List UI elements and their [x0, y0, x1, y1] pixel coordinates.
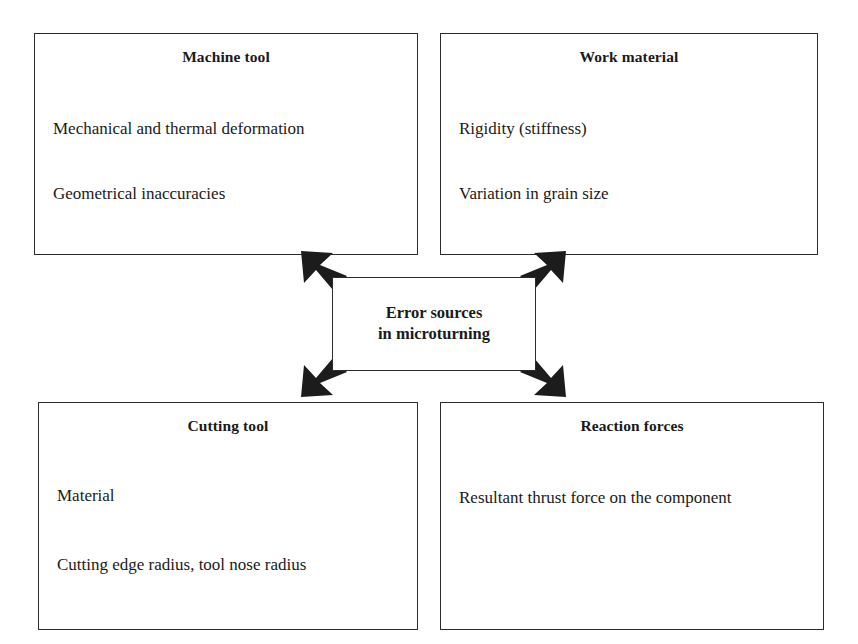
- node-work-material-item-1: Rigidity (stiffness): [459, 119, 587, 139]
- node-machine-tool-item-1: Mechanical and thermal deformation: [53, 119, 305, 139]
- node-machine-tool: Machine tool Mechanical and thermal defo…: [34, 33, 418, 255]
- node-cutting-tool: Cutting tool Material Cutting edge radiu…: [38, 402, 418, 630]
- node-machine-tool-item-2: Geometrical inaccuracies: [53, 184, 225, 204]
- node-cutting-tool-title: Cutting tool: [39, 417, 417, 435]
- node-work-material: Work material Rigidity (stiffness) Varia…: [440, 33, 818, 255]
- node-cutting-tool-item-1: Material: [57, 486, 115, 506]
- node-machine-tool-title: Machine tool: [35, 48, 417, 66]
- node-work-material-item-2: Variation in grain size: [459, 184, 609, 204]
- node-reaction-forces-item-1: Resultant thrust force on the component: [459, 488, 731, 508]
- node-work-material-title: Work material: [441, 48, 817, 66]
- center-text-line-1: Error sources: [378, 303, 490, 324]
- node-error-sources-center: Error sources in microturning: [332, 277, 536, 371]
- center-text-line-2: in microturning: [378, 324, 490, 345]
- node-cutting-tool-item-2: Cutting edge radius, tool nose radius: [57, 555, 306, 575]
- diagram-canvas: Machine tool Mechanical and thermal defo…: [0, 0, 858, 644]
- node-reaction-forces: Reaction forces Resultant thrust force o…: [440, 402, 824, 630]
- center-text-block: Error sources in microturning: [378, 303, 490, 344]
- node-reaction-forces-title: Reaction forces: [441, 417, 823, 435]
